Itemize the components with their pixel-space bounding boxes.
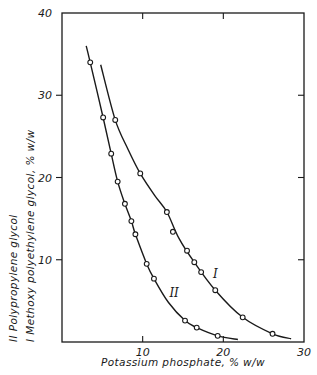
curve-label: II	[168, 286, 179, 300]
data-point-marker	[101, 115, 106, 120]
data-point-marker	[138, 171, 143, 176]
y-tick-label: 10	[38, 254, 52, 267]
data-point-marker	[192, 260, 197, 265]
data-point-marker	[152, 276, 157, 281]
data-point-marker	[123, 201, 128, 206]
y-axis-title-line-2: II Polypropylene glycol	[7, 214, 19, 342]
data-point-marker	[109, 151, 114, 156]
data-point-marker	[88, 60, 93, 65]
plot-frame	[62, 13, 304, 342]
data-point-marker	[133, 232, 138, 237]
curve-label: I	[212, 267, 218, 281]
data-point-marker	[240, 315, 245, 320]
curve-line	[101, 65, 291, 339]
plot-border	[62, 13, 304, 342]
data-point-marker	[183, 318, 188, 323]
chart: 10203010203040 III Potassium phosphate, …	[0, 0, 317, 375]
x-axis-title: Potassium phosphate, % w/w	[101, 356, 265, 368]
plot-area: 10203010203040 III Potassium phosphate, …	[0, 0, 317, 375]
data-point-marker	[115, 179, 120, 184]
data-point-marker	[194, 325, 199, 330]
data-series: III	[86, 46, 291, 340]
y-tick-label: 40	[38, 7, 52, 20]
data-point-marker	[199, 270, 204, 275]
data-point-marker	[171, 229, 176, 234]
y-tick-label: 30	[38, 89, 52, 102]
data-point-marker	[185, 248, 190, 253]
x-tick-label: 30	[297, 346, 311, 359]
data-point-marker	[270, 331, 275, 336]
series-i: I	[101, 65, 291, 339]
data-point-marker	[144, 261, 149, 266]
data-point-marker	[213, 288, 218, 293]
curve-line	[86, 46, 238, 340]
data-point-marker	[129, 219, 134, 224]
y-tick-label: 20	[38, 172, 52, 185]
axis-ticks: 10203010203040	[38, 7, 311, 359]
series-ii: II	[86, 46, 238, 340]
y-axis-title-line-1: I Methoxy polyethylene glycol, % w/w	[24, 130, 36, 342]
data-point-marker	[164, 210, 169, 215]
data-point-marker	[113, 118, 118, 123]
data-point-marker	[215, 333, 220, 338]
